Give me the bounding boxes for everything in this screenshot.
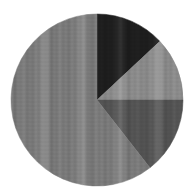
pie-chart-figure (0, 0, 191, 196)
pie-chart-canvas (0, 0, 191, 196)
pie-slices (11, 14, 183, 186)
